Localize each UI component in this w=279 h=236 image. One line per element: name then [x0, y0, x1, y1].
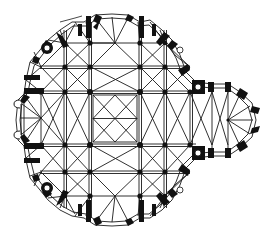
stair-tower-sw	[41, 182, 53, 194]
turret-ne	[177, 47, 183, 53]
turret-se	[177, 187, 183, 193]
vault-ribs	[20, 17, 253, 222]
stair-tower-se	[192, 146, 205, 160]
stair-tower-ne	[192, 80, 205, 94]
stair-tower-nw	[41, 42, 53, 54]
cathedral-floor-plan	[0, 0, 279, 236]
